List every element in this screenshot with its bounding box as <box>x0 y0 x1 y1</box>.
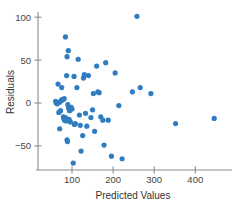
data-point <box>83 111 88 116</box>
y-tick-label: 50 <box>20 55 31 66</box>
x-axis: 100200300400 <box>36 167 232 186</box>
x-tick-label: 200 <box>105 174 121 185</box>
data-point <box>71 74 76 79</box>
y-axis-title: Residuals <box>5 70 16 114</box>
y-tick-label: 100 <box>15 12 31 23</box>
data-point <box>71 160 76 165</box>
x-tick-label: 400 <box>187 174 203 185</box>
data-point <box>64 73 69 78</box>
scatter-plot-canvas: −50050100 100200300400 Predicted Values … <box>0 0 240 207</box>
data-point <box>130 89 135 94</box>
x-tick-label: 100 <box>64 174 80 185</box>
data-point <box>65 139 70 144</box>
data-point <box>74 85 79 90</box>
data-point <box>86 73 91 78</box>
data-point <box>64 54 69 59</box>
data-point <box>78 123 83 128</box>
data-point <box>63 34 68 39</box>
data-point <box>148 91 153 96</box>
residual-scatter-plot-figure: −50050100 100200300400 Predicted Values … <box>0 0 240 207</box>
data-points-layer <box>53 14 217 166</box>
data-point <box>113 70 118 75</box>
data-point <box>69 106 74 111</box>
data-point <box>62 96 67 101</box>
data-point <box>58 108 63 113</box>
x-tick-label: 300 <box>146 174 162 185</box>
data-point <box>109 154 114 159</box>
data-point <box>100 118 105 123</box>
x-axis-title: Predicted Values <box>96 190 171 201</box>
data-point <box>92 129 97 134</box>
data-point <box>106 118 111 123</box>
data-point <box>90 107 95 112</box>
y-tick-label: 0 <box>26 97 31 108</box>
data-point <box>94 64 99 69</box>
data-point <box>88 115 93 120</box>
data-point <box>84 124 89 129</box>
data-point <box>66 48 71 53</box>
data-point <box>116 103 121 108</box>
data-point <box>173 121 178 126</box>
data-point <box>73 121 78 126</box>
data-point <box>76 57 81 62</box>
data-point <box>91 91 96 96</box>
data-point <box>57 126 62 131</box>
data-point <box>134 14 139 19</box>
data-point <box>138 85 143 90</box>
y-axis: −50050100 <box>15 12 42 170</box>
data-point <box>59 85 64 90</box>
data-point <box>101 142 106 147</box>
data-point <box>78 148 83 153</box>
data-point <box>77 112 82 117</box>
data-point <box>97 90 102 95</box>
data-point <box>103 60 108 65</box>
data-point <box>120 156 125 161</box>
y-tick-label: −50 <box>15 140 31 151</box>
data-point <box>80 133 85 138</box>
data-point <box>212 116 217 121</box>
